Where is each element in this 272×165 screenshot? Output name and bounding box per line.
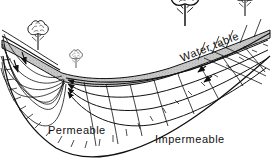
label-impermeable: Impermeable bbox=[155, 133, 225, 145]
groundwater-flow-net-diagram: Water table Permeable Impermeable bbox=[0, 0, 272, 165]
label-permeable: Permeable bbox=[48, 124, 106, 136]
diagram-canvas: Water table Permeable Impermeable bbox=[0, 0, 272, 165]
